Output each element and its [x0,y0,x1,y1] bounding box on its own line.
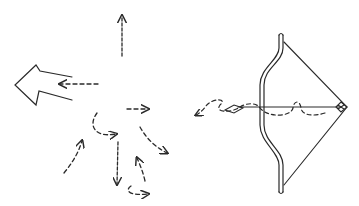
dashed-arrow-down-icon [117,142,118,184]
left-panel [15,16,167,194]
illustration-canvas [0,0,359,206]
dashed-arrow-curl-icon [93,113,116,135]
dashed-arrow-hook-icon [128,186,148,194]
bowstring [284,42,347,185]
bow-and-arrow [196,34,347,194]
dashed-arrow-small-up-icon [137,158,145,181]
dashed-arrow-up-right-icon [64,141,82,173]
big-left-arrow-icon [15,65,72,105]
dashed-arrow-diagonal-icon [140,127,167,153]
bow-icon [260,35,279,192]
